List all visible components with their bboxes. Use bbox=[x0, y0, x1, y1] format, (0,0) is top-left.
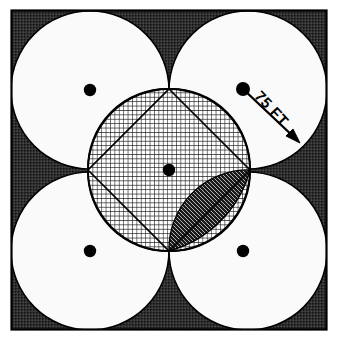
geometry-diagram: 75 FT bbox=[0, 0, 339, 342]
center-dot-top-left bbox=[84, 84, 96, 96]
center-dot-bottom-left bbox=[84, 245, 96, 257]
figure-root: 75 FT bbox=[0, 0, 339, 342]
center-dot-bottom-right bbox=[237, 245, 249, 257]
center-dot-central bbox=[163, 164, 175, 176]
